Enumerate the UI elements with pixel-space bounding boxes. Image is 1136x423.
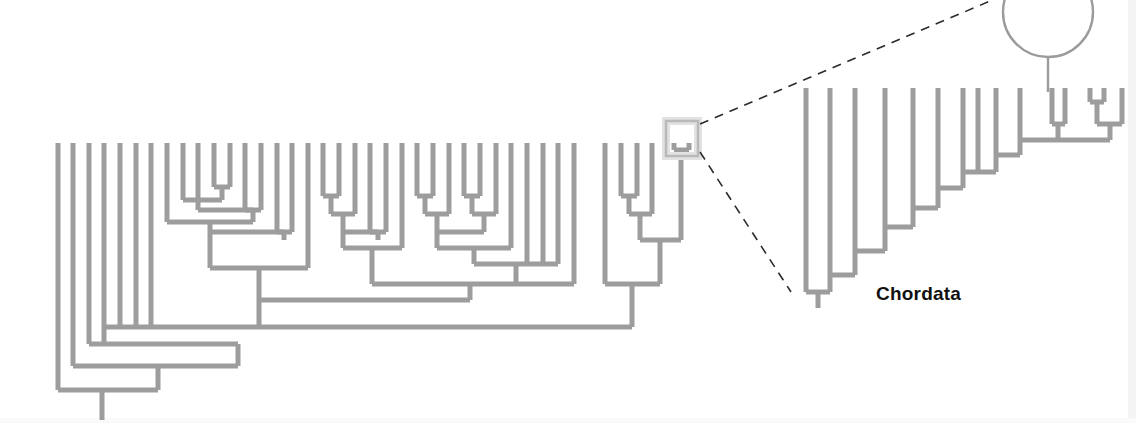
page-edge-smudge-bottom [0,418,1136,423]
figure-background [0,0,1136,423]
cladogram-figure: Chordata [0,0,1136,423]
page-edge-smudge-right [1128,0,1136,423]
clade-label-chordata: Chordata [876,283,961,304]
